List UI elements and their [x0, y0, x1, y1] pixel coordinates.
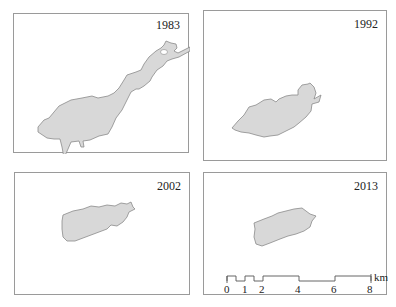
lake-shape-1992: [204, 11, 388, 162]
scale-tick-label: 0: [224, 283, 230, 295]
scale-tick-label: 4: [295, 283, 301, 295]
map-panel-1983: 1983: [13, 13, 189, 153]
lake-shape-1983: [14, 14, 190, 154]
scale-tick-label: 8: [367, 283, 373, 295]
lake-shape-2002: [15, 173, 191, 296]
scale-tick-label: 2: [259, 283, 265, 295]
scale-tick-label: 1: [242, 283, 248, 295]
map-panel-1992: 1992: [203, 10, 387, 161]
map-panel-2002: 2002: [14, 172, 190, 295]
scale-tick-label: 6: [331, 283, 337, 295]
map-panel-2013: 2013 0 1 2 4 6 8 km: [203, 172, 387, 295]
scale-unit-label: km: [374, 271, 388, 283]
scale-bar: 0 1 2 4 6 8 km: [204, 173, 388, 296]
